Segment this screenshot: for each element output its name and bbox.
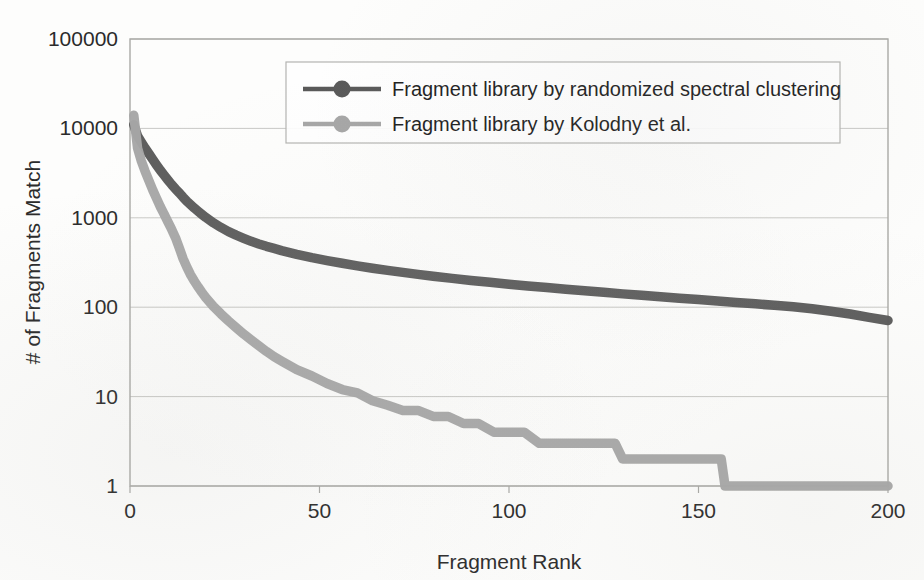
legend: Fragment library by randomized spectral … <box>286 62 841 143</box>
series-layer <box>134 115 888 486</box>
x-tick-label-100: 100 <box>491 499 526 522</box>
y-tick-label-100000: 100000 <box>48 27 118 50</box>
legend-marker-icon-1 <box>334 116 351 133</box>
x-tick-label-150: 150 <box>681 499 716 522</box>
figure-canvas: 110100100010000100000 050100150200 # of … <box>0 0 924 580</box>
legend-label-0: Fragment library by randomized spectral … <box>392 78 841 100</box>
x-axis-title: Fragment Rank <box>437 550 582 573</box>
x-tick-label-200: 200 <box>870 499 905 522</box>
x-tick-label-0: 0 <box>124 499 136 522</box>
series-line-randomized-spectral-clustering <box>134 125 888 321</box>
y-tick-label-1: 1 <box>106 474 118 497</box>
legend-marker-icon-0 <box>334 81 351 98</box>
line-chart: 110100100010000100000 050100150200 # of … <box>0 0 924 580</box>
x-axis-tick-labels: 050100150200 <box>124 499 905 522</box>
legend-label-1: Fragment library by Kolodny et al. <box>392 113 691 135</box>
y-tick-label-100: 100 <box>83 295 118 318</box>
y-tick-label-10: 10 <box>95 385 118 408</box>
x-tick-label-50: 50 <box>308 499 331 522</box>
y-axis-title: # of Fragments Match <box>21 160 44 364</box>
y-tick-label-10000: 10000 <box>60 116 118 139</box>
y-tick-label-1000: 1000 <box>71 206 118 229</box>
y-axis-tick-labels: 110100100010000100000 <box>48 27 118 497</box>
